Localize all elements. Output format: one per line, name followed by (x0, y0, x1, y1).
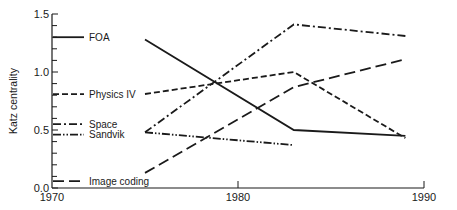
y-tick-label: 0.5 (34, 124, 49, 136)
legend-label: Sandvik (89, 129, 126, 140)
line-chart: 0.00.51.01.5197019801990 FOAPhysics IVSp… (0, 0, 457, 210)
series-physics-iv (145, 72, 405, 138)
series-image-coding (145, 59, 405, 173)
y-tick-label: 1.0 (34, 66, 49, 78)
legend-label: Image coding (89, 176, 149, 187)
y-tick-label: 1.5 (34, 8, 49, 20)
legend-label: Space (89, 119, 118, 130)
series-lines (145, 24, 405, 173)
x-tick-label: 1980 (226, 191, 250, 203)
series-space (145, 24, 405, 132)
legend: FOAPhysics IVSpaceSandvikImage coding (53, 32, 149, 187)
series-sandvik (145, 132, 294, 145)
x-tick-label: 1970 (40, 191, 64, 203)
y-axis-label: Katz centrality (7, 67, 19, 134)
legend-label: FOA (89, 32, 110, 43)
legend-label: Physics IV (89, 89, 136, 100)
x-tick-label: 1990 (412, 191, 436, 203)
